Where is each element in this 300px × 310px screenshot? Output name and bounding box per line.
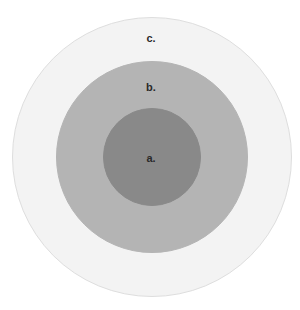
label-a: a.: [146, 152, 155, 164]
label-b: b.: [146, 81, 156, 93]
label-c: c.: [146, 32, 155, 44]
nested-circles-diagram: c. b. a.: [0, 0, 300, 310]
